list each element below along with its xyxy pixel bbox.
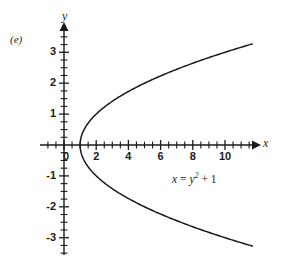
- x-tick-label-8: 8: [182, 150, 204, 162]
- y-tick-label-1: 1: [34, 107, 56, 119]
- plot-canvas: [0, 0, 283, 259]
- equation-tail: + 1: [201, 173, 216, 185]
- y-tick-label-2: 2: [34, 76, 56, 88]
- y-tick-label-neg3: -3: [34, 231, 56, 243]
- figure-panel: (e) x y 0246810 321-1-2-3 x=y2+ 1: [0, 0, 283, 259]
- plot-background: [0, 0, 283, 259]
- y-axis-label: y: [62, 9, 67, 24]
- panel-label: (e): [10, 33, 22, 45]
- equation-lhs: x: [172, 173, 177, 185]
- x-axis-label: x: [263, 136, 268, 151]
- y-tick-label-neg2: -2: [34, 200, 56, 212]
- x-tick-label-2: 2: [85, 150, 107, 162]
- equation-exponent: 2: [195, 171, 199, 180]
- y-tick-label-neg1: -1: [34, 169, 56, 181]
- x-tick-label-0: 0: [55, 150, 77, 162]
- y-tick-label-3: 3: [34, 45, 56, 57]
- equation-equals: =: [180, 173, 187, 185]
- x-tick-label-6: 6: [150, 150, 172, 162]
- equation-annotation: x=y2+ 1: [172, 171, 217, 185]
- x-tick-label-4: 4: [117, 150, 139, 162]
- x-tick-label-10: 10: [214, 150, 236, 162]
